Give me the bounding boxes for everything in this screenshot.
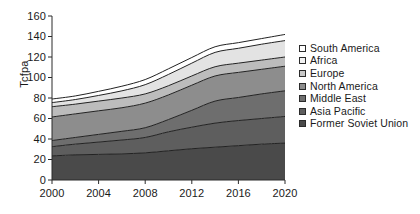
legend-swatch-icon — [299, 120, 306, 127]
legend-swatch-icon — [299, 83, 306, 90]
y-axis-tick-label: 100 — [20, 72, 46, 83]
legend-item-label: North America — [310, 81, 378, 92]
x-axis-tick-label: 2016 — [216, 188, 260, 199]
legend-swatch-icon — [299, 108, 306, 115]
legend-swatch-icon — [299, 45, 306, 52]
x-axis-tick-label: 2008 — [123, 188, 167, 199]
chart-legend: South AmericaAfricaEuropeNorth AmericaMi… — [299, 42, 419, 130]
x-axis-tick-labels: 200020042008201220162020 — [52, 186, 285, 202]
y-axis-tick-label: 80 — [20, 93, 46, 104]
x-axis-tick-label: 2004 — [77, 188, 121, 199]
legend-item-label: South America — [310, 43, 380, 54]
x-axis-tick-label: 2000 — [30, 188, 74, 199]
legend-item-south-america[interactable]: South America — [299, 42, 419, 55]
legend-item-africa[interactable]: Africa — [299, 55, 419, 68]
plot-area — [52, 16, 285, 180]
plot-svg — [52, 16, 285, 180]
y-axis-tick-label: 160 — [20, 11, 46, 22]
y-axis-tick-label: 60 — [20, 113, 46, 124]
legend-item-former-soviet-union[interactable]: Former Soviet Union — [299, 118, 419, 131]
legend-item-label: Africa — [310, 55, 337, 66]
legend-item-label: Middle East — [310, 93, 366, 104]
legend-item-asia-pacific[interactable]: Asia Pacific — [299, 105, 419, 118]
y-axis-tick-label: 20 — [20, 154, 46, 165]
y-axis-tick-label: 0 — [20, 175, 46, 186]
legend-item-middle-east[interactable]: Middle East — [299, 92, 419, 105]
legend-swatch-icon — [299, 57, 306, 64]
y-axis-tick-labels: 020406080100120140160 — [16, 16, 46, 180]
x-axis-tick-label: 2012 — [170, 188, 214, 199]
y-axis-tick-label: 40 — [20, 134, 46, 145]
legend-item-label: Former Soviet Union — [310, 118, 408, 129]
stacked-bands — [52, 34, 285, 180]
x-axis-tick-label: 2020 — [263, 188, 307, 199]
legend-item-north-america[interactable]: North America — [299, 80, 419, 93]
legend-item-label: Europe — [310, 68, 344, 79]
y-axis-tick-label: 140 — [20, 31, 46, 42]
legend-swatch-icon — [299, 70, 306, 77]
stacked-area-chart-figure: Tcfpa 020406080100120140160 200020042008… — [0, 0, 420, 214]
y-axis-tick-label: 120 — [20, 52, 46, 63]
legend-item-europe[interactable]: Europe — [299, 67, 419, 80]
legend-swatch-icon — [299, 95, 306, 102]
legend-item-label: Asia Pacific — [310, 106, 365, 117]
